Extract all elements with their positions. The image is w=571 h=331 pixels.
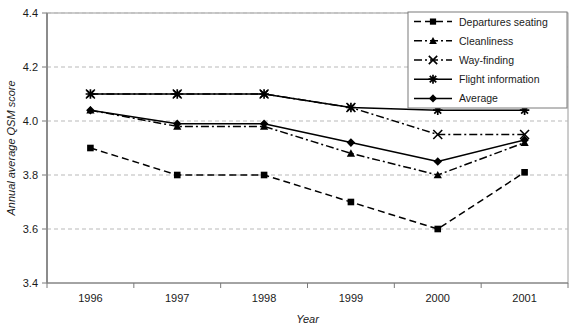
- y-tick-label: 3.6: [23, 223, 38, 235]
- marker-asterisk: [346, 103, 356, 113]
- marker-square: [521, 169, 528, 176]
- y-tick-label: 3.4: [23, 277, 38, 289]
- x-tick-label: 2001: [512, 292, 536, 304]
- x-tick-label: 2000: [426, 292, 450, 304]
- x-tick-label: 1998: [252, 292, 276, 304]
- legend-label-3: Way-finding: [459, 54, 514, 66]
- x-tick-label: 1997: [165, 292, 189, 304]
- marker-asterisk: [86, 89, 96, 99]
- qsm-score-line-chart: 3.43.63.84.04.24.41996199719981999200020…: [0, 0, 571, 331]
- legend: Departures seatingCleanlinessWay-finding…: [408, 12, 567, 108]
- marker-square: [434, 226, 441, 233]
- marker-square: [261, 172, 268, 179]
- x-axis-title: Year: [296, 313, 320, 325]
- y-tick-label: 4.4: [23, 7, 38, 19]
- x-tick-label: 1996: [78, 292, 102, 304]
- marker-square: [430, 19, 436, 25]
- marker-square: [87, 145, 94, 152]
- y-axis-title: Annual average QSM score: [5, 80, 17, 216]
- marker-square: [174, 172, 181, 179]
- marker-asterisk: [429, 75, 438, 84]
- y-tick-label: 3.8: [23, 169, 38, 181]
- marker-asterisk: [259, 89, 269, 99]
- x-axis-ticks: 199619971998199920002001: [47, 283, 568, 304]
- chart-container: 3.43.63.84.04.24.41996199719981999200020…: [0, 0, 571, 331]
- y-tick-label: 4.2: [23, 61, 38, 73]
- marker-square: [348, 199, 355, 206]
- y-tick-label: 4.0: [23, 115, 38, 127]
- legend-label-5: Average: [459, 92, 498, 104]
- x-tick-label: 1999: [339, 292, 363, 304]
- y-axis-ticks: 3.43.63.84.04.24.4: [23, 7, 47, 289]
- legend-label-4: Flight information: [459, 73, 540, 85]
- marker-asterisk: [172, 89, 182, 99]
- legend-label-1: Departures seating: [459, 16, 548, 28]
- legend-label-2: Cleanliness: [459, 35, 513, 47]
